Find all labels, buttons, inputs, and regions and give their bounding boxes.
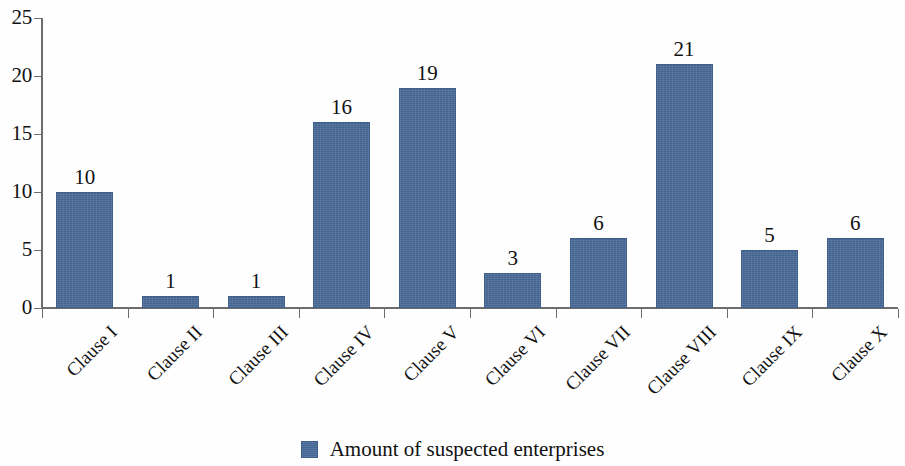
bar	[399, 88, 456, 308]
bar-value-label: 10	[45, 166, 125, 188]
x-axis-tick	[128, 309, 129, 318]
y-axis-tick	[34, 308, 42, 309]
y-axis-tick	[34, 192, 42, 193]
legend-label: Amount of suspected enterprises	[330, 438, 605, 460]
y-axis-tick-label: 10	[0, 181, 32, 202]
bar	[741, 250, 798, 308]
y-axis-tick-label: 15	[0, 123, 32, 144]
legend-item: Amount of suspected enterprises	[301, 438, 605, 460]
x-axis-tick	[812, 309, 813, 318]
x-axis-tick	[42, 309, 43, 318]
x-axis-tick	[299, 309, 300, 318]
y-axis-tick	[34, 76, 42, 77]
y-axis-tick-label: 5	[0, 239, 32, 260]
x-axis-tick	[898, 309, 899, 318]
bar-value-label: 6	[558, 212, 638, 234]
bar	[570, 238, 627, 308]
bar	[142, 296, 199, 308]
y-axis-tick	[34, 250, 42, 251]
bar-value-label: 19	[387, 62, 467, 84]
bar	[656, 64, 713, 308]
legend-color-swatch	[301, 441, 318, 458]
bar	[827, 238, 884, 308]
x-axis-tick	[641, 309, 642, 318]
y-axis-tick	[34, 18, 42, 19]
y-axis-tick-label: 25	[0, 7, 32, 28]
plot-area: 10111619362156	[42, 18, 898, 308]
bar	[484, 273, 541, 308]
bar-value-label: 6	[815, 212, 895, 234]
bar	[313, 122, 370, 308]
bar-value-label: 5	[730, 224, 810, 246]
bar	[228, 296, 285, 308]
bar	[56, 192, 113, 308]
x-axis-tick	[213, 309, 214, 318]
x-axis-tick	[384, 309, 385, 318]
y-axis-tick-label: 20	[0, 65, 32, 86]
x-axis-tick	[470, 309, 471, 318]
bar-value-label: 16	[302, 96, 382, 118]
bar-value-label: 1	[130, 270, 210, 292]
bar-value-label: 1	[216, 270, 296, 292]
bar-value-label: 3	[473, 247, 553, 269]
chart-legend: Amount of suspected enterprises	[0, 438, 905, 460]
y-axis-tick-label: 0	[0, 297, 32, 318]
bar-chart: 0510152025 10111619362156 Clause IClause…	[0, 0, 905, 466]
y-axis-tick	[34, 134, 42, 135]
x-axis-tick	[727, 309, 728, 318]
x-axis-tick	[556, 309, 557, 318]
bar-value-label: 21	[644, 38, 724, 60]
